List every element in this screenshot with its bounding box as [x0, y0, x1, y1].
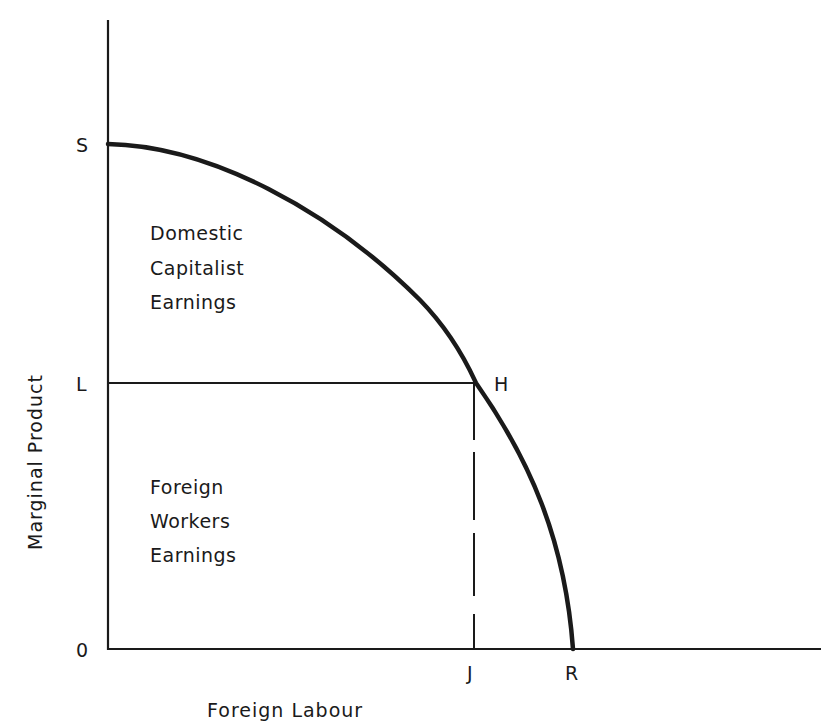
foreign-workers-earnings-label: Foreign Workers Earnings [150, 476, 236, 566]
label-j: J [466, 662, 473, 684]
label-origin: 0 [76, 639, 88, 661]
label-l: L [76, 373, 87, 395]
label-h: H [494, 373, 508, 395]
marginal-product-curve [108, 144, 573, 649]
marginal-product-diagram: S L 0 H J R Domestic Capitalist Earnings… [0, 0, 839, 721]
label-s: S [76, 134, 88, 156]
y-axis-title: Marginal Product [24, 374, 46, 550]
svg-text:Earnings: Earnings [150, 291, 236, 313]
svg-text:Capitalist: Capitalist [150, 257, 244, 279]
svg-text:Workers: Workers [150, 510, 230, 532]
svg-text:Domestic: Domestic [150, 222, 244, 244]
domestic-capitalist-earnings-label: Domestic Capitalist Earnings [150, 222, 244, 313]
svg-text:Earnings: Earnings [150, 544, 236, 566]
label-r: R [565, 662, 578, 684]
svg-text:Foreign: Foreign [150, 476, 224, 498]
x-axis-title: Foreign Labour [207, 699, 363, 721]
